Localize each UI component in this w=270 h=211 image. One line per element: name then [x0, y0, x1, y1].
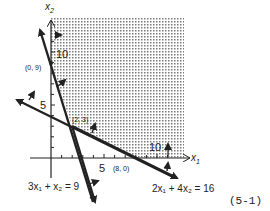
x1-axis-label: x1	[190, 152, 200, 165]
feasible-region	[51, 17, 184, 158]
point-label-8-0: (8, 0)	[113, 165, 129, 173]
y-tick-10: 10	[56, 48, 68, 60]
x-tick-10: 10	[149, 141, 161, 153]
x-tick-5: 5	[99, 162, 105, 174]
point-label-2-3: (2, 3)	[72, 116, 88, 124]
y-tick-5: 5	[40, 99, 46, 111]
x2-axis-label: x2	[44, 1, 54, 14]
constraint-label-1: 3x₁ + x₂ = 9	[28, 181, 80, 192]
point-label-0-9: (0, 9)	[25, 64, 41, 72]
vertex-point	[49, 61, 53, 65]
direction-arrow-icon	[29, 92, 34, 100]
direction-arrow-icon	[167, 163, 168, 171]
constraint-label-2: 2x₁ + 4x₂ = 16	[152, 183, 215, 194]
figure-number: (5-1)	[229, 195, 262, 207]
diagram-canvas: x2 x1 10 5 5 10 (0, 9) (2, 3) (8, 0) 3x₁…	[0, 0, 270, 211]
